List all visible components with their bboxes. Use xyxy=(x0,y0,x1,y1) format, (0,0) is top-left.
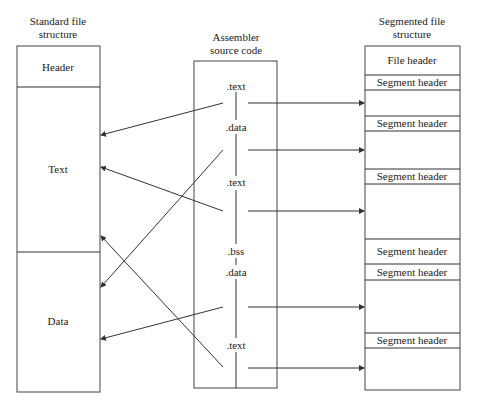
standard-title-line2: structure xyxy=(39,28,78,40)
directive-text-1: .text xyxy=(226,80,245,92)
file-structure-diagram: Standard file structure Header Text Data… xyxy=(0,0,478,403)
segment-header-2: Segment header xyxy=(377,117,448,129)
segment-header-6: Segment header xyxy=(377,334,448,346)
section-text: Text xyxy=(48,163,67,175)
section-header: Header xyxy=(42,61,74,73)
segment-header-3: Segment header xyxy=(377,170,448,182)
standard-file-structure: Standard file structure Header Text Data xyxy=(17,15,100,392)
file-header: File header xyxy=(387,54,437,66)
directive-data-1: .data xyxy=(225,121,246,133)
segmented-title-line2: structure xyxy=(393,28,432,40)
segment-header-4: Segment header xyxy=(377,245,448,257)
assembler-source-code: Assembler source code .text .data .text … xyxy=(194,31,277,388)
directive-text-2: .text xyxy=(226,176,245,188)
assembler-title-line2: source code xyxy=(210,44,262,56)
segment-header-1: Segment header xyxy=(377,76,448,88)
section-data: Data xyxy=(48,315,69,327)
segmented-title-line1: Segmented file xyxy=(379,15,445,27)
directive-data-2: .data xyxy=(225,266,246,278)
segment-header-5: Segment header xyxy=(377,266,448,278)
assembler-title-line1: Assembler xyxy=(212,31,259,43)
directive-text-3: .text xyxy=(226,339,245,351)
segmented-file-structure: Segmented file structure File header Seg… xyxy=(365,15,460,390)
standard-title-line1: Standard file xyxy=(30,15,87,27)
standard-file-box xyxy=(17,46,100,392)
directive-bss: .bss xyxy=(228,245,245,257)
